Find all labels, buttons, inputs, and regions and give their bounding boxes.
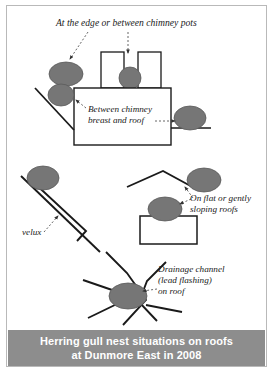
annotation-drainage-channel: Drainage channel (lead flashing) on roof — [158, 264, 225, 297]
leader-line — [44, 216, 58, 232]
gull-icon — [27, 166, 59, 190]
figure-page: At the edge or between chimney pots Betw… — [0, 0, 275, 374]
annotation-flat-roof: On flat or gently sloping roofs — [190, 193, 251, 215]
gull-icon — [48, 84, 74, 106]
caption-line-1: Herring gull nest situations on roofs — [40, 334, 233, 348]
roof-nest-diagram — [0, 0, 275, 374]
velux-group — [21, 166, 100, 252]
gull-icon — [119, 67, 141, 89]
annotation-velux: velux — [22, 227, 41, 238]
gull-icon — [109, 283, 147, 309]
gull-icon — [174, 106, 206, 130]
roof-valley-line — [146, 305, 182, 312]
annotation-chimney-pots: At the edge or between chimney pots — [56, 17, 197, 28]
gull-icon — [49, 62, 83, 86]
gull-icon — [187, 168, 221, 192]
gull-icon — [148, 197, 182, 221]
caption-line-2: at Dunmore East in 2008 — [71, 348, 201, 362]
leader-line — [70, 32, 88, 59]
chimney-pot — [138, 52, 161, 88]
chimney-pots-group — [35, 52, 211, 145]
figure-caption-band: Herring gull nest situations on roofs at… — [8, 330, 265, 366]
annotation-chimney-breast: Between chimney breast and roof — [88, 104, 152, 126]
